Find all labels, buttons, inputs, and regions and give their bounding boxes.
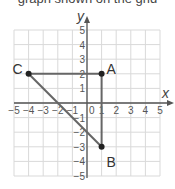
y-tick-label: 4 — [79, 40, 85, 51]
x-axis-label: x — [161, 85, 170, 101]
y-axis-label: y — [76, 8, 85, 24]
x-tick-label: 2 — [113, 105, 119, 116]
x-tick-label: −3 — [37, 105, 49, 116]
y-tick-label: 5 — [79, 25, 85, 36]
point-c — [26, 71, 32, 77]
point-a — [99, 71, 105, 77]
x-tick-label: 3 — [128, 105, 134, 116]
point-label-c: C — [13, 61, 23, 77]
y-tick-label: −4 — [74, 156, 86, 167]
coordinate-plane: −5−4−3−2−101234554321−1−2−3−4−5 ABC x y — [0, 0, 175, 189]
y-axis-arrow-icon — [84, 16, 90, 23]
y-tick-label: −5 — [74, 171, 86, 182]
x-tick-label: 0 — [89, 105, 95, 116]
y-tick-label: 3 — [79, 54, 85, 65]
y-tick-label: 1 — [79, 83, 85, 94]
y-tick-label: −3 — [74, 142, 86, 153]
x-tick-label: 4 — [143, 105, 149, 116]
x-tick-label: −4 — [23, 105, 35, 116]
point-label-b: B — [107, 154, 116, 170]
point-b — [99, 144, 105, 150]
axes — [14, 16, 174, 178]
point-label-a: A — [107, 61, 117, 77]
x-tick-label: 5 — [157, 105, 163, 116]
x-tick-label: −5 — [8, 105, 20, 116]
